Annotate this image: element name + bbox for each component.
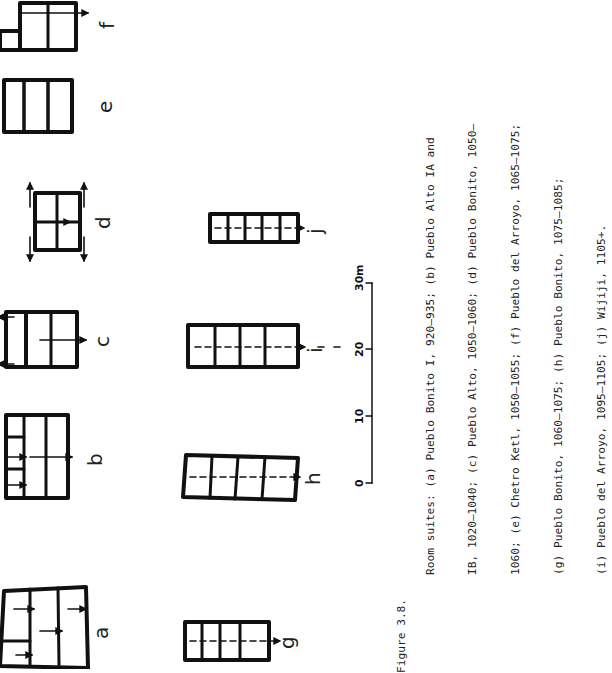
room-suite-f xyxy=(0,3,88,50)
panel-label-a: a xyxy=(89,627,113,639)
room-suite-e xyxy=(4,80,72,132)
scale-tick-0: 0 xyxy=(353,479,366,487)
scale-tick-20: 20 xyxy=(353,341,366,357)
caption-line: (i) Pueblo del Arroyo, 1095–1105; (j) Wi… xyxy=(595,124,609,575)
panel-label-d: d xyxy=(91,216,115,229)
room-suite-d xyxy=(30,183,84,261)
room-suite-a xyxy=(0,587,88,668)
caption-line: Room suites: (a) Pueblo Bonito I, 920–93… xyxy=(424,124,438,575)
caption-line: 1060; (e) Chetro Ketl, 1050–1055; (f) Pu… xyxy=(509,124,523,575)
room-suites-diagram: a b c xyxy=(0,0,395,669)
panel-label-j: j xyxy=(303,228,327,235)
caption-line: (g) Pueblo Bonito, 1060–1075; (h) Pueblo… xyxy=(552,124,566,575)
panel-label-c: c xyxy=(90,336,114,347)
panel-label-e: e xyxy=(93,101,117,113)
panel-label-b: b xyxy=(83,453,107,466)
scale-tick-30: 30 xyxy=(353,275,366,291)
panel-label-h: h xyxy=(301,472,325,485)
room-suite-b xyxy=(6,415,72,498)
room-suite-j xyxy=(210,214,304,242)
scale-tick-10: 10 xyxy=(353,408,366,424)
room-suite-g xyxy=(185,622,280,660)
caption-line: IB, 1020–1040; (c) Pueblo Alto, 1050–106… xyxy=(466,124,480,575)
room-suite-h xyxy=(183,455,300,500)
figure-number: Figure 3.8. xyxy=(395,599,409,673)
panel-label-g: g xyxy=(275,636,299,649)
caption-body: Room suites: (a) Pueblo Bonito I, 920–93… xyxy=(395,124,612,575)
panel-label-f: f xyxy=(95,21,119,29)
room-suite-i xyxy=(188,325,345,367)
panel-label-i: i xyxy=(303,347,327,353)
scale-bar xyxy=(366,283,372,483)
scale-unit: m xyxy=(353,265,366,276)
room-suite-c xyxy=(0,312,86,367)
